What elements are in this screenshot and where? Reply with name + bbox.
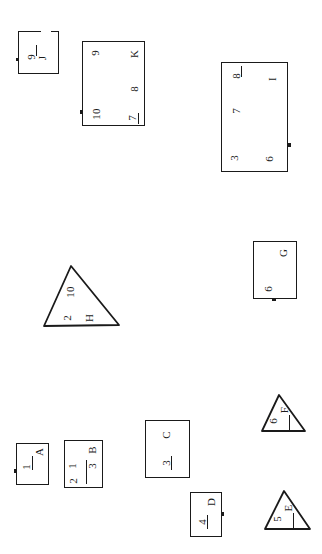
shape-i-label-8: 8 xyxy=(231,73,242,79)
shape-i-label-3: 3 xyxy=(229,155,240,161)
shape-f-label-f: F xyxy=(279,407,290,413)
shape-h-label-2: 2 xyxy=(62,315,73,321)
shape-h: 10 2 H xyxy=(42,263,120,331)
shape-a-label-a: A xyxy=(34,448,45,456)
shape-f-tick xyxy=(289,415,290,430)
shape-g-outline xyxy=(253,241,297,299)
shape-b-label-2: 2 xyxy=(68,478,79,484)
shape-9-j-label-j: J xyxy=(37,56,48,60)
shape-9-j-top-notch xyxy=(41,29,51,33)
shape-b-tick xyxy=(86,460,87,484)
shape-b-label-b: B xyxy=(87,446,98,454)
shape-c-outline xyxy=(145,420,190,478)
shape-f-outline xyxy=(260,393,307,434)
shape-e-label-e: E xyxy=(283,505,294,512)
shape-a-label-1: 1 xyxy=(21,464,32,470)
shape-f-label-6: 6 xyxy=(268,418,279,424)
shape-d-right-nub xyxy=(221,512,224,516)
shape-a-tick xyxy=(32,456,33,470)
shape-c-label-c: C xyxy=(161,431,172,439)
shape-h-label-h: H xyxy=(84,314,95,322)
shape-k-label-9: 9 xyxy=(90,50,101,56)
shape-9-j-tick xyxy=(36,45,37,56)
shape-g-label-6: 6 xyxy=(263,286,274,292)
shape-g-bottom-nub xyxy=(272,298,276,301)
shape-i-right-nub xyxy=(287,143,291,147)
drawing-canvas: 9 J 9 K 8 10 7 8 I 7 3 6 G 6 10 2 xyxy=(0,0,322,554)
shape-b-label-3: 3 xyxy=(87,463,98,469)
shape-h-outline xyxy=(42,263,120,331)
shape-9-j-left-nub xyxy=(16,58,19,61)
shape-d-label-4: 4 xyxy=(197,519,208,525)
shape-a-left-nub xyxy=(14,469,17,473)
shape-c-label-3: 3 xyxy=(161,460,172,466)
shape-i-label-i: I xyxy=(267,77,278,81)
shape-b-label-1: 1 xyxy=(67,463,78,469)
shape-k-label-7: 7 xyxy=(127,115,138,121)
shape-d-label-d: D xyxy=(206,498,217,506)
shape-k-left-nub xyxy=(80,110,83,114)
shape-9-j-outline xyxy=(18,31,59,74)
shape-i-tick xyxy=(241,66,242,77)
shape-i-label-6: 6 xyxy=(264,156,275,162)
shape-k-label-8: 8 xyxy=(129,86,140,92)
shape-k-tick xyxy=(138,113,139,124)
shape-k-label-k: K xyxy=(129,50,140,58)
shape-e-label-5: 5 xyxy=(272,516,283,522)
shape-f: F 6 xyxy=(260,393,307,434)
shape-i-label-7: 7 xyxy=(231,108,242,114)
shape-c-tick xyxy=(171,456,172,470)
shape-k-label-10: 10 xyxy=(91,108,102,119)
shape-d-tick xyxy=(207,515,208,529)
shape-h-label-10: 10 xyxy=(65,286,76,297)
shape-e: E 5 xyxy=(263,489,312,533)
shape-e-tick xyxy=(293,513,294,528)
shape-g-label-g: G xyxy=(278,249,289,257)
